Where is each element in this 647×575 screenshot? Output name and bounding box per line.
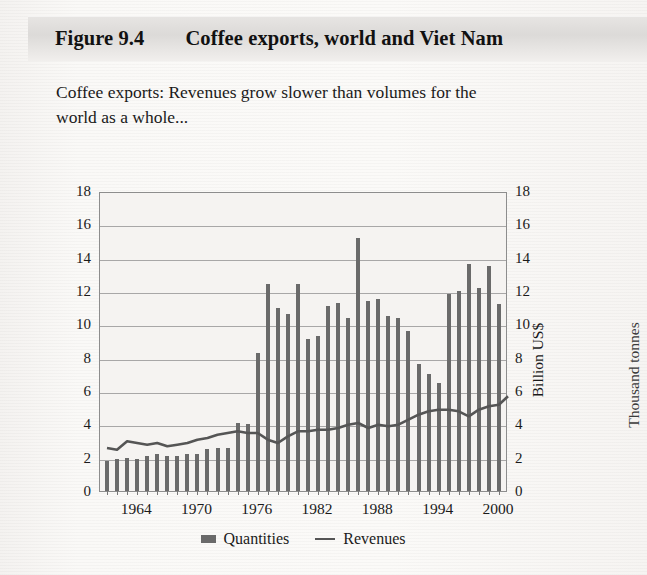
revenues-line xyxy=(107,396,508,449)
legend-item-revenues: Revenues xyxy=(315,530,405,548)
y-axis-right-tick-label: 12 xyxy=(515,283,553,300)
x-tickmark xyxy=(288,491,289,495)
chart-legend: Quantities Revenues xyxy=(99,530,507,548)
x-tickmark xyxy=(408,491,409,495)
x-tickmark xyxy=(117,491,118,495)
x-axis-tick-label: 1964 xyxy=(121,500,152,518)
y-axis-left-tick-label: 12 xyxy=(53,283,91,300)
x-tickmark xyxy=(348,491,349,495)
y-axis-left-tick-label: 0 xyxy=(53,483,91,500)
x-axis-tick-label: 1994 xyxy=(422,500,453,518)
plot-area xyxy=(99,192,507,492)
x-tickmark xyxy=(238,491,239,495)
x-tickmark xyxy=(398,491,399,495)
chart-subtitle: Coffee exports: Revenues grow slower tha… xyxy=(56,80,486,130)
x-tickmark xyxy=(469,491,470,495)
figure-title-banner: Figure 9.4 Coffee exports, world and Vie… xyxy=(28,16,647,61)
y-axis-right-tick-label: 18 xyxy=(515,183,553,200)
x-tickmark xyxy=(147,491,148,495)
y-axis-right-title: Billion US$ xyxy=(529,323,547,398)
x-axis-tick-label: 1988 xyxy=(362,500,393,518)
legend-label-quantities: Quantities xyxy=(224,530,290,548)
chart-container: 024681012141618 024681012141618 19641970… xyxy=(0,170,647,575)
x-tickmark xyxy=(449,491,450,495)
x-tickmark xyxy=(218,491,219,495)
line-series-revenues xyxy=(100,193,506,491)
x-tickmark xyxy=(228,491,229,495)
y-axis-right-tick-label: 4 xyxy=(515,416,553,433)
y-axis-left-tick-label: 14 xyxy=(53,250,91,267)
x-tickmark xyxy=(127,491,128,495)
x-axis-tick-label: 1970 xyxy=(181,500,212,518)
x-tickmark xyxy=(429,491,430,495)
x-tickmark xyxy=(388,491,389,495)
x-tickmark xyxy=(328,491,329,495)
x-tickmark xyxy=(248,491,249,495)
y-axis-left-tick-label: 6 xyxy=(53,383,91,400)
legend-label-revenues: Revenues xyxy=(343,530,405,548)
x-tickmark xyxy=(419,491,420,495)
x-tickmark xyxy=(207,491,208,495)
legend-bar-swatch-icon xyxy=(201,535,216,543)
figure-number: Figure 9.4 xyxy=(55,27,144,50)
x-axis-tick-label: 1982 xyxy=(302,500,333,518)
y-axis-left-tick-label: 8 xyxy=(53,350,91,367)
x-tickmark xyxy=(298,491,299,495)
x-tickmark xyxy=(268,491,269,495)
x-tickmark xyxy=(358,491,359,495)
y-axis-right-tick-label: 16 xyxy=(515,216,553,233)
x-axis-tick-label: 2000 xyxy=(482,500,513,518)
y-axis-right-tick-label: 0 xyxy=(515,483,553,500)
x-tickmark xyxy=(368,491,369,495)
x-tickmark xyxy=(177,491,178,495)
legend-line-swatch-icon xyxy=(315,538,335,540)
y-axis-right-tick-label: 2 xyxy=(515,450,553,467)
x-tickmark xyxy=(167,491,168,495)
x-tickmark xyxy=(157,491,158,495)
x-tickmark xyxy=(107,491,108,495)
x-tickmark xyxy=(439,491,440,495)
x-tickmark xyxy=(499,491,500,495)
legend-item-quantities: Quantities xyxy=(201,530,290,548)
x-tickmark xyxy=(187,491,188,495)
y-axis-left-tick-label: 10 xyxy=(53,316,91,333)
y-axis-right-tick-label: 14 xyxy=(515,250,553,267)
y-axis-left-tick-label: 4 xyxy=(53,416,91,433)
x-tickmark xyxy=(137,491,138,495)
y-axis-left-tick-label: 2 xyxy=(53,450,91,467)
x-tickmark xyxy=(197,491,198,495)
adjacent-chart-axis-title: Thousand tonnes xyxy=(625,322,643,427)
x-tickmark xyxy=(338,491,339,495)
x-tickmark xyxy=(308,491,309,495)
x-tickmark xyxy=(479,491,480,495)
x-tickmark xyxy=(318,491,319,495)
x-tickmark xyxy=(489,491,490,495)
x-tickmark xyxy=(459,491,460,495)
y-axis-left-tick-label: 18 xyxy=(53,183,91,200)
x-tickmark xyxy=(278,491,279,495)
x-axis-tick-label: 1976 xyxy=(241,500,272,518)
figure-title: Coffee exports, world and Viet Nam xyxy=(185,27,503,50)
x-tickmark xyxy=(258,491,259,495)
y-axis-left-tick-label: 16 xyxy=(53,216,91,233)
y-axis-left-title: Million tonnes xyxy=(0,275,3,366)
x-tickmark xyxy=(378,491,379,495)
